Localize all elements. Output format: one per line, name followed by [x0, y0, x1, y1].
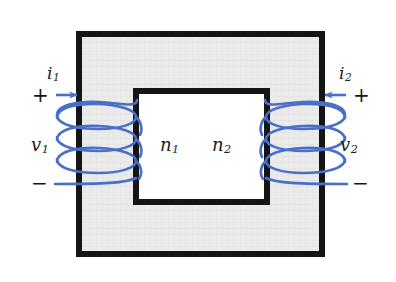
voltage-label-v2: v2 — [340, 134, 358, 156]
transformer-diagram: i1 i2 + + − − v1 v2 n1 n2 — [0, 0, 396, 282]
terminal-minus-right: − — [352, 173, 369, 193]
terminal-plus-left: + — [32, 85, 49, 105]
turns-label-n1: n1 — [160, 134, 179, 156]
current-label-i2-subscript: 2 — [344, 71, 351, 83]
turns-label-n1-subscript: 1 — [172, 143, 180, 156]
voltage-label-v1: v1 — [31, 134, 49, 156]
voltage-label-v2-subscript: 2 — [350, 143, 358, 156]
turns-label-n2-symbol: n — [212, 134, 224, 155]
voltage-label-v1-subscript: 1 — [41, 143, 49, 156]
voltage-label-v2-symbol: v — [340, 134, 350, 155]
turns-label-n2: n2 — [212, 134, 231, 156]
diagram-canvas — [0, 0, 396, 282]
current-label-i1-subscript: 1 — [52, 71, 59, 83]
turns-label-n1-symbol: n — [160, 134, 172, 155]
current-label-i1: i1 — [47, 63, 60, 83]
current-label-i2: i2 — [339, 63, 352, 83]
voltage-label-v1-symbol: v — [31, 134, 41, 155]
core-window-rect — [136, 91, 267, 202]
core-group — [79, 34, 322, 254]
terminal-plus-right: + — [353, 85, 370, 105]
turns-label-n2-subscript: 2 — [224, 143, 232, 156]
terminal-minus-left: − — [31, 173, 48, 193]
